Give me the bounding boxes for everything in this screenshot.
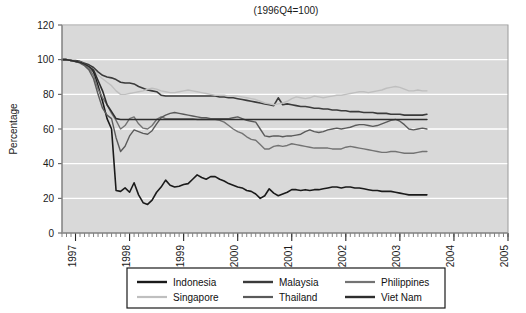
chart-legend: IndonesiaMalaysiaPhilippinesSingaporeTha… <box>127 268 445 308</box>
y-tick-label: 80 <box>43 89 55 100</box>
x-tick-label: 2002 <box>337 245 348 268</box>
y-axis-title: Percentage <box>8 103 19 155</box>
chart-figure: (1996Q4=100) 020406080100120 19971998199… <box>0 0 526 313</box>
x-tick-label: 2000 <box>229 245 240 268</box>
x-tick-label: 2004 <box>445 245 456 268</box>
x-tick-label: 1998 <box>121 245 132 268</box>
x-tick-label: 2001 <box>283 245 294 268</box>
line-chart: (1996Q4=100) 020406080100120 19971998199… <box>0 0 526 313</box>
legend-label-thailand[interactable]: Thailand <box>279 292 317 303</box>
x-tick-label: 2003 <box>391 245 402 268</box>
x-tick-label: 1999 <box>175 245 186 268</box>
legend-label-malaysia[interactable]: Malaysia <box>279 277 319 288</box>
legend-label-indonesia[interactable]: Indonesia <box>173 277 217 288</box>
y-tick-label: 0 <box>48 228 54 239</box>
legend-label-singapore[interactable]: Singapore <box>173 292 219 303</box>
x-tick-label: 2005 <box>499 245 510 268</box>
y-tick-label: 120 <box>37 20 54 31</box>
y-tick-label: 20 <box>43 193 55 204</box>
chart-title: (1996Q4=100) <box>254 5 319 16</box>
legend-label-philippines[interactable]: Philippines <box>381 277 429 288</box>
y-tick-label: 60 <box>43 124 55 135</box>
legend-label-viet-nam[interactable]: Viet Nam <box>381 292 422 303</box>
y-tick-label: 100 <box>37 54 54 65</box>
x-tick-label: 1997 <box>67 245 78 268</box>
y-tick-label: 40 <box>43 158 55 169</box>
